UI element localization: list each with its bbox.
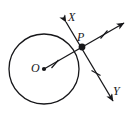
geometry-canvas: [0, 0, 133, 116]
center-point-O-dot: [42, 67, 46, 71]
label-ray-Y: Y: [113, 85, 120, 97]
geometry-figure: O P X Y: [0, 0, 133, 116]
label-ray-X: X: [68, 11, 75, 23]
tangent-point-P-dot: [79, 44, 86, 51]
label-center-O: O: [31, 62, 40, 74]
tick-on-ray-beyond-P: [101, 31, 108, 39]
label-point-P: P: [77, 31, 84, 43]
